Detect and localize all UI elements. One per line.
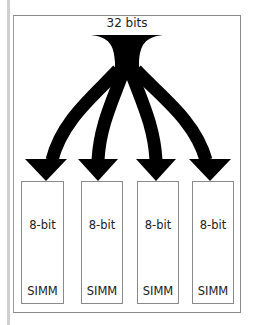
simm-type-label: SIMM [138,284,178,298]
simm-module-4: 8-bit SIMM [192,181,234,304]
simm-bit-width: 8-bit [138,218,178,232]
bus-trunk-icon [91,35,163,78]
simm-bit-width: 8-bit [22,218,63,232]
arrowhead-3-icon [136,159,176,181]
simm-type-label: SIMM [22,284,63,298]
arrowhead-1-icon [25,159,67,181]
simm-module-3: 8-bit SIMM [137,181,179,304]
arrowhead-2-icon [78,159,118,181]
simm-bit-width: 8-bit [82,218,122,232]
simm-module-2: 8-bit SIMM [81,181,123,304]
simm-module-1: 8-bit SIMM [21,181,64,304]
bus-width-label: 32 bits [0,16,254,30]
simm-bit-width: 8-bit [193,218,233,232]
arrowhead-4-icon [189,159,231,181]
simm-type-label: SIMM [82,284,122,298]
simm-type-label: SIMM [193,284,233,298]
